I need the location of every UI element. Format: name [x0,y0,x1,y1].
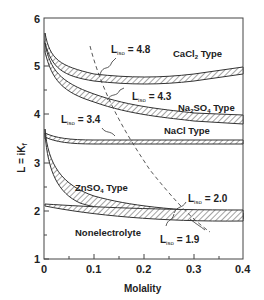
y-tick-label: 4 [34,108,41,120]
x-axis-title: Molality [124,283,162,294]
label-nacl-type: NaCl Type [164,125,210,136]
label-cacl2-type: CaCl2 Type [173,48,222,60]
y-tick-label: 2 [34,205,40,217]
band-nacl [45,133,243,144]
colligative-chart: 1 2 3 4 5 6 0 0.1 0.2 0.3 0.4 Molality L… [0,0,264,300]
x-axis-ticks [69,254,219,259]
label-nonelectrolyte: Nonelectrolyte [75,227,141,238]
label-na2so4-type: Na2SO4 Type [178,102,235,114]
y-tick-label: 5 [34,60,40,72]
annotation-liso-4-3: Liso= 4.3 [132,91,172,103]
annotation-liso-3-4: Liso= 3.4 [61,114,101,126]
x-tick-label: 0.4 [235,263,251,275]
y-tick-label: 1 [34,253,40,265]
label-znso4-type: ZnSO4 Type [75,182,128,194]
x-tick-label: 0.3 [186,263,201,275]
annotation-liso-1-9: Liso= 1.9 [160,234,200,246]
annotation-liso-4-8: Liso= 4.8 [111,44,151,56]
x-tick-label: 0.1 [86,263,101,275]
x-tick-label: 0 [41,263,47,275]
y-tick-label: 6 [34,13,40,25]
x-tick-label: 0.2 [136,263,151,275]
y-tick-label: 3 [34,157,40,169]
annotation-liso-2-0: Liso= 2.0 [188,193,228,205]
y-axis-title: L = iKf [16,143,28,173]
svg-text:L = iKf: L = iKf [16,143,28,173]
